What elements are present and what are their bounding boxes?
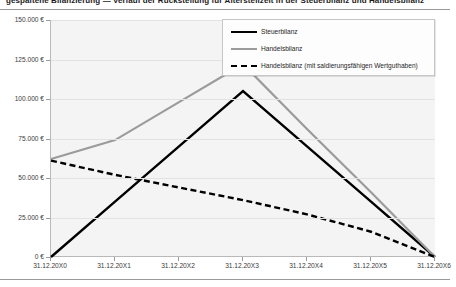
cropped-heading-strip: gespaltene Bilanzierung — Verlauf der Rü…	[0, 0, 450, 9]
x-axis-tick	[50, 257, 51, 261]
legend-swatch-dashed-black-icon	[231, 62, 257, 70]
horizontal-rule-top	[0, 9, 450, 10]
legend-item-steuerbilanz: Steuerbilanz	[231, 26, 298, 38]
chart-legend: Steuerbilanz Handelsbilanz Handelsbilanz…	[222, 19, 435, 76]
x-axis-tick	[114, 257, 115, 261]
y-axis-tick-label: 25.000 €	[0, 214, 44, 222]
y-axis-tick-label: 50.000 €	[0, 174, 44, 182]
gridline	[51, 218, 435, 219]
x-axis-tick-label: 31.12.20X1	[79, 261, 149, 270]
y-axis-tick-label: 100.000 €	[0, 95, 44, 103]
y-axis-tick-label: 150.000 €	[0, 16, 44, 24]
legend-swatch-solid-black-icon	[231, 28, 257, 36]
x-axis-tick-label: 31.12.20X3	[207, 261, 277, 270]
y-axis-tick-label: 0 €	[0, 253, 44, 261]
x-axis-tick	[370, 257, 371, 261]
x-axis-tick-label: 31.12.20X0	[15, 261, 85, 270]
legend-label: Steuerbilanz	[261, 28, 298, 36]
x-axis-tick	[434, 257, 435, 261]
gridline	[51, 99, 435, 100]
legend-label: Handelsbilanz (mit saldierungsfähigen We…	[261, 62, 418, 70]
y-axis-tick	[46, 139, 50, 140]
legend-swatch-solid-gray-icon	[231, 45, 257, 53]
x-axis-tick	[178, 257, 179, 261]
x-axis-tick-label: 31.12.20X4	[271, 261, 341, 270]
legend-label: Handelsbilanz	[261, 45, 302, 53]
gridline	[51, 178, 435, 179]
y-axis-tick	[46, 178, 50, 179]
x-axis-tick	[242, 257, 243, 261]
horizontal-rule-bottom	[0, 279, 450, 280]
y-axis-tick	[46, 60, 50, 61]
legend-item-handelsbilanz: Handelsbilanz	[231, 43, 302, 55]
x-axis-tick	[306, 257, 307, 261]
y-axis-tick	[46, 20, 50, 21]
y-axis-tick	[46, 99, 50, 100]
gridline	[51, 139, 435, 140]
x-axis-tick-label: 31.12.20X5	[335, 261, 405, 270]
series-line	[51, 64, 435, 257]
cropped-heading-text: gespaltene Bilanzierung — Verlauf der Rü…	[6, 0, 424, 5]
x-axis-tick-label: 31.12.20X6	[399, 261, 456, 270]
line-chart: 0 €25.000 €50.000 €75.000 €100.000 €125.…	[0, 11, 450, 277]
x-axis-tick-label: 31.12.20X2	[143, 261, 213, 270]
legend-item-handelsbilanz-saldiert: Handelsbilanz (mit saldierungsfähigen We…	[231, 60, 418, 72]
y-axis-tick-label: 75.000 €	[0, 135, 44, 143]
y-axis-tick-label: 125.000 €	[0, 56, 44, 64]
y-axis-tick	[46, 218, 50, 219]
